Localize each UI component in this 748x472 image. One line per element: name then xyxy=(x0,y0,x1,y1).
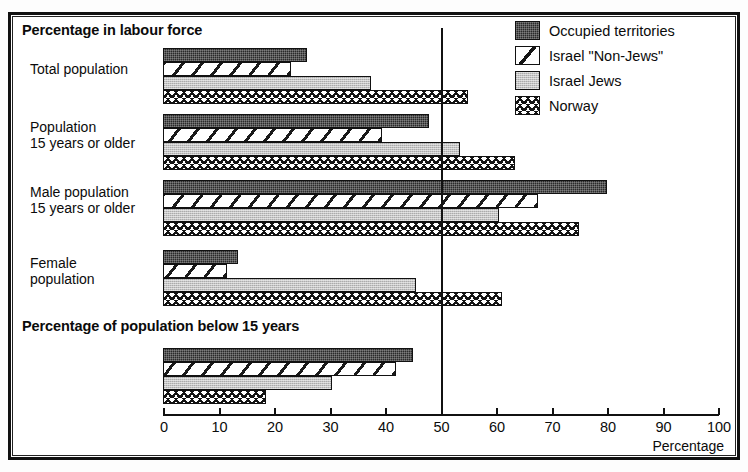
legend-item: Israel "Non-Jews" xyxy=(515,43,729,68)
legend-swatch-icon xyxy=(515,21,540,40)
x-axis-tick xyxy=(607,408,609,415)
x-axis-tick xyxy=(441,408,443,415)
legend-item: Norway xyxy=(515,93,729,118)
panel-title-below-15: Percentage of population below 15 years xyxy=(22,318,299,334)
bar xyxy=(163,292,502,306)
x-axis-tick-label: 40 xyxy=(378,419,394,435)
bar xyxy=(163,142,460,156)
x-axis-tick xyxy=(219,408,221,415)
chart-figure: Percentage in labour force Percentage of… xyxy=(0,0,748,472)
bar xyxy=(163,180,607,194)
x-axis-tick-label: 50 xyxy=(433,419,449,435)
panel-title-labour-force: Percentage in labour force xyxy=(22,22,202,38)
x-axis-tick-label: 0 xyxy=(160,419,168,435)
bar xyxy=(163,194,538,208)
x-axis-tick-label: 60 xyxy=(489,419,505,435)
bar xyxy=(163,76,371,90)
legend-swatch-icon xyxy=(515,96,540,115)
x-axis-tick xyxy=(385,408,387,415)
category-label-male-population-15-or-older: Male population 15 years or older xyxy=(30,185,135,216)
x-axis-tick-label: 20 xyxy=(267,419,283,435)
legend-item: Occupied territories xyxy=(515,18,729,43)
bar xyxy=(163,348,413,362)
x-axis-caption: Percentage xyxy=(652,438,724,454)
x-axis-tick xyxy=(718,408,720,415)
x-axis-tick xyxy=(552,408,554,415)
x-axis-tick xyxy=(163,408,165,415)
legend-label: Israel "Non-Jews" xyxy=(549,48,663,64)
legend-swatch-icon xyxy=(515,71,540,90)
legend-item: Israel Jews xyxy=(515,68,729,93)
bar xyxy=(163,362,396,376)
bar xyxy=(163,264,227,278)
legend-swatch-icon xyxy=(515,46,540,65)
category-label-female-population: Female population xyxy=(30,256,95,287)
x-axis-tick xyxy=(330,408,332,415)
bar xyxy=(163,62,291,76)
legend-label: Occupied territories xyxy=(549,23,675,39)
bar xyxy=(163,250,238,264)
bar xyxy=(163,222,579,236)
x-axis-tick-label: 80 xyxy=(600,419,616,435)
bar xyxy=(163,156,515,170)
x-axis-tick-label: 10 xyxy=(211,419,227,435)
x-axis-tick-label: 70 xyxy=(544,419,560,435)
x-axis-tick xyxy=(274,408,276,415)
bar xyxy=(163,48,307,62)
bar xyxy=(163,278,416,292)
x-axis-tick-label: 30 xyxy=(322,419,338,435)
bar xyxy=(163,90,468,104)
category-label-total-population: Total population xyxy=(30,62,128,78)
x-axis-tick xyxy=(496,408,498,415)
legend-label: Israel Jews xyxy=(549,73,622,89)
category-label-population-15-or-older: Population 15 years or older xyxy=(30,120,135,151)
bar xyxy=(163,208,499,222)
legend-label: Norway xyxy=(549,98,598,114)
x-axis-tick-label: 90 xyxy=(655,419,671,435)
x-axis-tick-label: 100 xyxy=(707,419,731,435)
bar xyxy=(163,376,332,390)
reference-line-50-percent xyxy=(441,28,443,414)
legend: Occupied territoriesIsrael "Non-Jews"Isr… xyxy=(515,18,729,118)
x-axis-tick xyxy=(663,408,665,415)
bar xyxy=(163,390,266,404)
bar xyxy=(163,128,382,142)
bar xyxy=(163,114,429,128)
